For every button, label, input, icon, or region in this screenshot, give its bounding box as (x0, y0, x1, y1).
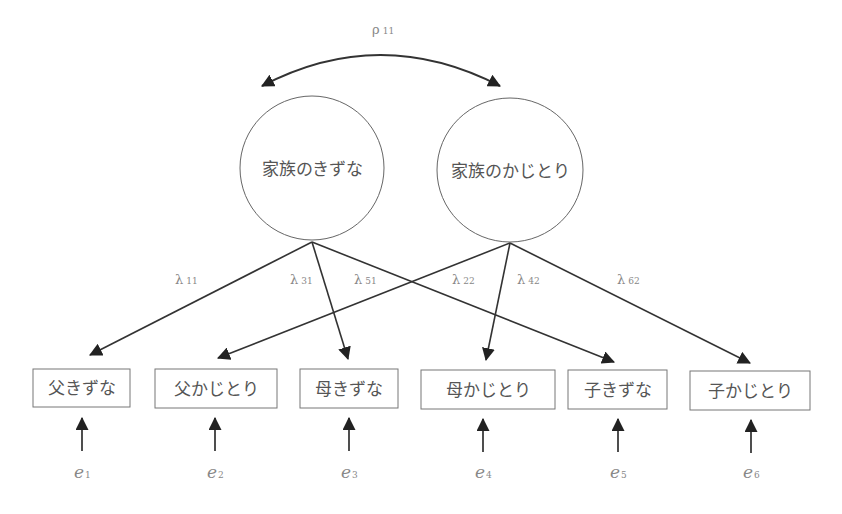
error-label-e1: e1 (74, 462, 91, 482)
svg-text:父かじとり: 父かじとり (174, 379, 259, 399)
error-label-e3: e3 (341, 462, 358, 482)
loading-label-l42: λ42 (517, 272, 540, 287)
loading-arrow-l42 (486, 243, 510, 360)
loading-arrow-l31 (312, 242, 348, 359)
observed-box-mother-kajitori: 母かじとり (421, 370, 555, 409)
loading-label-l22: λ22 (452, 272, 475, 287)
observed-box-child-kajitori: 子かじとり (690, 371, 810, 410)
loading-label-l11: λ11 (175, 272, 198, 287)
svg-text:母かじとり: 母かじとり (446, 380, 531, 400)
svg-text:父きずな: 父きずな (48, 378, 116, 398)
loading-arrow-l11 (90, 242, 312, 355)
latent-label: 家族のかじとり (451, 161, 570, 181)
correlation-arc (262, 55, 500, 86)
observed-box-mother-kizuna: 母きずな (300, 369, 398, 408)
error-label-e4: e4 (475, 462, 492, 482)
loading-arrow-l22 (218, 243, 510, 358)
error-label-e2: e2 (207, 462, 224, 482)
error-label-e5: e5 (610, 462, 627, 482)
loading-label-l51: λ51 (354, 272, 377, 287)
observed-box-father-kizuna: 父きずな (33, 369, 130, 407)
svg-text:母きずな: 母きずな (315, 379, 383, 399)
svg-text:子きずな: 子きずな (584, 380, 652, 400)
error-label-e6: e6 (743, 462, 760, 482)
loading-label-l62: λ62 (617, 272, 640, 287)
observed-box-child-kizuna: 子きずな (568, 370, 667, 409)
correlation-label: ρ11 (372, 22, 394, 37)
latent-factor-kizuna: 家族のきずな (240, 96, 384, 240)
loading-arrow-l62 (510, 243, 750, 363)
svg-text:子かじとり: 子かじとり (708, 381, 793, 401)
loading-arrow-l51 (312, 242, 614, 362)
latent-factor-kajitori: 家族のかじとり (437, 98, 583, 242)
sem-diagram: ρ11 家族のきずな 家族のかじとり λ11 λ31 λ51 λ22 λ42 λ… (0, 0, 842, 514)
latent-label: 家族のきずな (262, 159, 363, 179)
loading-label-l31: λ31 (290, 272, 313, 287)
observed-box-father-kajitori: 父かじとり (155, 369, 277, 408)
